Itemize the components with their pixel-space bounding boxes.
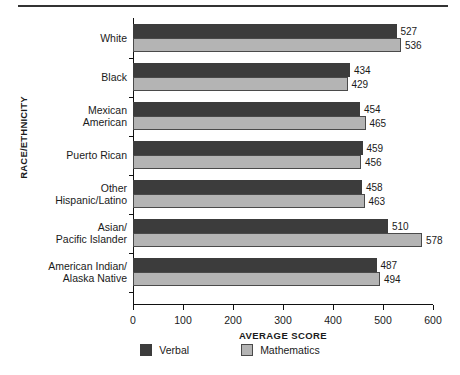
y-axis-tick	[129, 214, 133, 215]
bar-mathematics[interactable]	[133, 272, 380, 286]
legend-label: Mathematics	[260, 344, 320, 356]
x-axis-tick	[433, 305, 434, 310]
x-axis-title: AVERAGE SCORE	[133, 330, 433, 341]
bar-group: Asian/Pacific Islander510578	[133, 219, 433, 247]
bar-verbal[interactable]	[133, 102, 360, 116]
category-label-line: Mexican	[83, 104, 127, 116]
x-axis-tick-label: 600	[424, 314, 442, 326]
bar-value-label: 578	[422, 235, 443, 246]
bar-row: 434	[133, 63, 433, 77]
legend-item[interactable]: Verbal	[140, 344, 189, 356]
bar-value-label: 465	[366, 118, 387, 129]
bar-row: 494	[133, 272, 433, 286]
chart-legend: VerbalMathematics	[0, 344, 460, 356]
y-axis-tick	[129, 253, 133, 254]
bar-group: Puerto Rican459456	[133, 141, 433, 169]
legend-swatch-mathematics	[241, 344, 253, 356]
bar-group: OtherHispanic/Latino458463	[133, 180, 433, 208]
x-axis-tick-label: 400	[324, 314, 342, 326]
bar-row: 487	[133, 258, 433, 272]
x-axis-tick	[133, 305, 134, 310]
x-axis-tick-label: 300	[274, 314, 292, 326]
bar-value-label: 463	[365, 196, 386, 207]
category-label: MexicanAmerican	[83, 104, 133, 128]
y-axis-tick	[129, 136, 133, 137]
category-label-line: Asian/	[56, 221, 127, 233]
bar-value-label: 510	[388, 221, 409, 232]
bar-row: 510	[133, 219, 433, 233]
x-axis-tick	[233, 305, 234, 310]
chart-frame-top-rule	[18, 5, 448, 7]
category-label-line: Hispanic/Latino	[55, 194, 127, 206]
bar-mathematics[interactable]	[133, 194, 365, 208]
bar-value-label: 454	[360, 104, 381, 115]
bar-value-label: 456	[361, 157, 382, 168]
category-label-line: White	[100, 32, 127, 44]
bar-value-label: 536	[401, 40, 422, 51]
bar-group: MexicanAmerican454465	[133, 102, 433, 130]
category-label-line: Black	[101, 71, 127, 83]
category-label: OtherHispanic/Latino	[55, 182, 133, 206]
category-label: American Indian/Alaska Native	[48, 260, 133, 284]
y-axis-tick	[129, 292, 133, 293]
bar-mathematics[interactable]	[133, 77, 348, 91]
bar-mathematics[interactable]	[133, 116, 366, 130]
category-label-line: American	[83, 116, 127, 128]
bar-group: American Indian/Alaska Native487494	[133, 258, 433, 286]
bar-value-label: 429	[348, 79, 369, 90]
bar-row: 465	[133, 116, 433, 130]
x-axis-tick-label: 100	[174, 314, 192, 326]
x-axis-tick	[333, 305, 334, 310]
plot-area: White527536Black434429MexicanAmerican454…	[133, 18, 433, 305]
x-axis-tick-label: 0	[130, 314, 136, 326]
bar-mathematics[interactable]	[133, 38, 401, 52]
bar-verbal[interactable]	[133, 141, 363, 155]
bar-row: 463	[133, 194, 433, 208]
bar-row: 456	[133, 155, 433, 169]
bar-row: 459	[133, 141, 433, 155]
bar-verbal[interactable]	[133, 219, 388, 233]
bar-verbal[interactable]	[133, 180, 362, 194]
legend-label: Verbal	[159, 344, 189, 356]
category-label-line: Alaska Native	[48, 272, 127, 284]
bar-value-label: 434	[350, 65, 371, 76]
legend-item[interactable]: Mathematics	[241, 344, 320, 356]
bar-verbal[interactable]	[133, 63, 350, 77]
bar-value-label: 459	[363, 143, 384, 154]
bar-row: 536	[133, 38, 433, 52]
category-label: Black	[101, 71, 133, 83]
legend-swatch-verbal	[140, 344, 152, 356]
category-label-line: American Indian/	[48, 260, 127, 272]
bar-row: 578	[133, 233, 433, 247]
category-label-line: Puerto Rican	[66, 149, 127, 161]
bar-verbal[interactable]	[133, 258, 377, 272]
bar-value-label: 494	[380, 274, 401, 285]
y-axis-title: RACE/ETHNICITY	[18, 73, 29, 203]
bar-group: White527536	[133, 24, 433, 52]
bar-value-label: 458	[362, 182, 383, 193]
x-axis-tick	[383, 305, 384, 310]
category-label: White	[100, 32, 133, 44]
bar-row: 527	[133, 24, 433, 38]
category-label-line: Other	[55, 182, 127, 194]
bar-group: Black434429	[133, 63, 433, 91]
category-label: Puerto Rican	[66, 149, 133, 161]
bar-mathematics[interactable]	[133, 155, 361, 169]
category-label: Asian/Pacific Islander	[56, 221, 133, 245]
x-axis-tick	[183, 305, 184, 310]
y-axis-tick	[129, 97, 133, 98]
bar-mathematics[interactable]	[133, 233, 422, 247]
bar-verbal[interactable]	[133, 24, 397, 38]
bar-value-label: 487	[377, 260, 398, 271]
x-axis-tick-label: 500	[374, 314, 392, 326]
y-axis-tick	[129, 175, 133, 176]
category-label-line: Pacific Islander	[56, 233, 127, 245]
x-axis-tick-label: 200	[224, 314, 242, 326]
bar-row: 458	[133, 180, 433, 194]
x-axis-tick	[283, 305, 284, 310]
y-axis-tick	[129, 58, 133, 59]
bar-row: 429	[133, 77, 433, 91]
bar-row: 454	[133, 102, 433, 116]
bar-value-label: 527	[397, 26, 418, 37]
